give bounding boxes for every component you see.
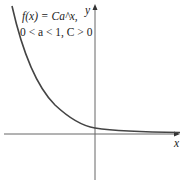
- equation-line-1: f(x) = Ca^x,: [22, 11, 78, 23]
- decay-curve: [12, 6, 180, 133]
- equation-line-2: 0 < a < 1, C > 0: [20, 27, 92, 39]
- y-axis-arrow-icon: [93, 4, 98, 10]
- exponential-decay-diagram: f(x) = Ca^x, 0 < a < 1, C > 0 y x: [0, 0, 190, 184]
- y-axis-label: y: [85, 5, 90, 17]
- x-axis-label: x: [174, 138, 179, 150]
